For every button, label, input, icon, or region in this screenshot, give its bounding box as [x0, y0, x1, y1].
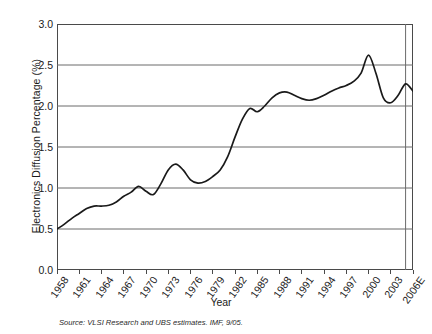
x-tick-mark: [346, 270, 347, 274]
x-tick-mark: [390, 270, 391, 274]
x-tick-mark: [101, 270, 102, 274]
x-tick-mark: [79, 270, 80, 274]
x-tick-mark: [190, 270, 191, 274]
x-tick-mark: [279, 270, 280, 274]
x-tick-mark: [146, 270, 147, 274]
x-tick-mark: [123, 270, 124, 274]
x-tick-mark: [168, 270, 169, 274]
x-axis-tick-labels: 1958196119641967197019731976197919821985…: [0, 0, 432, 334]
x-tick-mark: [301, 270, 302, 274]
x-tick-mark: [413, 270, 414, 274]
x-axis-title-wrap: Year: [0, 296, 432, 308]
x-tick-mark: [368, 270, 369, 274]
x-tick-mark: [324, 270, 325, 274]
x-axis-title: Year: [210, 296, 231, 308]
source-note: Source: VLSI Research and UBS estimates.…: [59, 318, 243, 327]
x-tick-mark: [257, 270, 258, 274]
x-tick-mark: [57, 270, 58, 274]
x-tick-mark: [235, 270, 236, 274]
x-tick-mark: [212, 270, 213, 274]
chart-figure: Electronics Diffusion Percentage (%) 3.0…: [0, 0, 432, 334]
